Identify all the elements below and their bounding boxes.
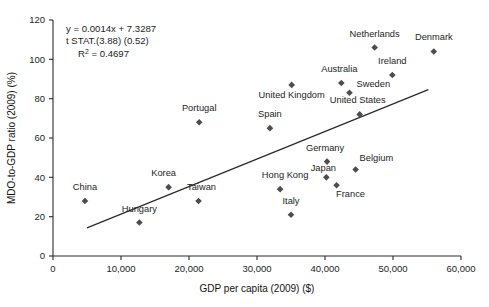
- x-tick-label: 60,000: [446, 263, 475, 274]
- data-point-label: Taiwan: [187, 182, 216, 192]
- data-point-marker: [338, 80, 345, 87]
- x-tick-label: 20,000: [174, 263, 203, 274]
- data-point-label: France: [336, 189, 365, 199]
- data-point: Korea: [151, 168, 177, 190]
- data-point-marker: [288, 211, 295, 218]
- data-points-layer: ChinaHungaryKoreaTaiwanPortugalSpainHong…: [73, 29, 453, 226]
- data-point-label: Korea: [151, 168, 177, 178]
- y-axis-ticks: 020406080100120: [29, 14, 53, 261]
- data-point: France: [333, 182, 365, 199]
- data-point-label: Portugal: [182, 103, 217, 113]
- data-point-label: United Kingdom: [259, 90, 325, 100]
- data-point-label: Italy: [282, 196, 299, 206]
- data-point: Japan: [311, 163, 336, 180]
- annotation-equation: y = 0.0014x + 7.3287: [66, 23, 156, 34]
- y-tick-label: 120: [29, 14, 45, 25]
- data-point-marker: [82, 198, 89, 205]
- y-tick-label: 60: [34, 132, 45, 143]
- data-point: China: [73, 182, 98, 204]
- data-point-marker: [288, 82, 295, 89]
- data-point-marker: [165, 184, 172, 191]
- chart-canvas: 020406080100120 010,00020,00030,00040,00…: [0, 0, 489, 307]
- data-point: United States: [330, 95, 386, 117]
- data-point: Sweden: [346, 79, 390, 96]
- data-point-label: Belgium: [360, 153, 394, 163]
- data-point-label: Hungary: [122, 204, 157, 214]
- data-point-marker: [352, 166, 359, 173]
- x-tick-label: 0: [50, 263, 55, 274]
- y-axis-title: MDO-to-GDP ratio (2009) (%): [6, 72, 17, 204]
- data-point-label: Hong Kong: [262, 170, 309, 180]
- data-point: Belgium: [352, 153, 393, 172]
- data-point-label: China: [73, 182, 98, 192]
- data-point: Hong Kong: [262, 170, 309, 192]
- y-tick-label: 100: [29, 54, 45, 65]
- annotation-tstat: t STAT.(3.88) (0.52): [66, 35, 149, 46]
- data-point-marker: [431, 48, 438, 55]
- y-tick-label: 80: [34, 93, 45, 104]
- data-point-label: Spain: [258, 109, 282, 119]
- data-point: Denmark: [415, 32, 453, 54]
- x-tick-label: 40,000: [310, 263, 339, 274]
- data-point-marker: [389, 72, 396, 79]
- data-point: United Kingdom: [259, 82, 325, 100]
- data-point-label: Australia: [321, 64, 358, 74]
- data-point-label: Germany: [306, 143, 345, 153]
- regression-annotation: y = 0.0014x + 7.3287 t STAT.(3.88) (0.52…: [66, 23, 156, 59]
- y-tick-label: 20: [34, 211, 45, 222]
- data-point: Portugal: [182, 103, 217, 125]
- y-tick-label: 0: [40, 250, 45, 261]
- data-point-marker: [136, 219, 143, 226]
- data-point: Hungary: [122, 204, 157, 226]
- x-axis-ticks: 010,00020,00030,00040,00050,00060,000: [50, 256, 475, 274]
- data-point: Italy: [282, 196, 299, 218]
- data-point: Ireland: [378, 56, 406, 78]
- data-point-marker: [323, 174, 330, 181]
- x-tick-label: 10,000: [106, 263, 135, 274]
- data-point: Germany: [306, 143, 345, 165]
- x-tick-label: 50,000: [378, 263, 407, 274]
- data-point-marker: [333, 182, 340, 189]
- annotation-r2-value: = 0.4697: [89, 48, 129, 59]
- data-point: Taiwan: [187, 182, 216, 204]
- data-point-label: Sweden: [356, 79, 390, 89]
- data-point-label: Denmark: [415, 32, 453, 42]
- y-tick-label: 40: [34, 172, 45, 183]
- data-point: Netherlands: [350, 29, 400, 51]
- scatter-chart-figure: 020406080100120 010,00020,00030,00040,00…: [0, 0, 489, 307]
- data-point: Spain: [258, 109, 282, 131]
- annotation-r2: R2 = 0.4697: [78, 48, 129, 60]
- data-point-label: Ireland: [378, 56, 406, 66]
- data-point-marker: [196, 119, 203, 126]
- data-point-marker: [371, 44, 378, 51]
- data-point: Australia: [321, 64, 358, 86]
- x-tick-label: 30,000: [242, 263, 271, 274]
- x-axis-title: GDP per capita (2009) ($): [200, 283, 315, 294]
- annotation-r2-prefix: R: [78, 48, 85, 59]
- data-point-label: Netherlands: [350, 29, 400, 39]
- data-point-label: Japan: [311, 163, 336, 173]
- data-point-label: United States: [330, 95, 386, 105]
- data-point-marker: [267, 125, 274, 132]
- data-point-marker: [277, 186, 284, 193]
- data-point-marker: [195, 198, 202, 205]
